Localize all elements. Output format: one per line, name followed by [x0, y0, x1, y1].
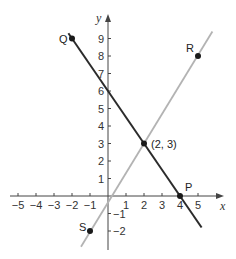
y-tick-label: −1: [113, 208, 126, 220]
x-tick-label: −4: [30, 199, 43, 211]
y-tick-label: 3: [98, 138, 104, 150]
point-label: S: [79, 221, 86, 233]
y-tick-label: 2: [98, 155, 104, 167]
point-marker: [195, 53, 201, 59]
x-tick-label: −3: [48, 199, 61, 211]
y-tick-label: 8: [98, 50, 104, 62]
x-tick-label: 2: [141, 199, 147, 211]
lines: [68, 32, 212, 247]
point-marker: [177, 193, 183, 199]
x-axis-label: x: [219, 199, 226, 213]
point-marker: [69, 36, 75, 42]
x-tick-label: −5: [12, 199, 25, 211]
y-tick-label: −2: [113, 225, 126, 237]
coordinate-plane: xy −5−4−3−2−112345−2−1123456789 QRPS(2, …: [0, 0, 236, 259]
x-tick-label: −1: [84, 199, 97, 211]
y-tick-label: 9: [98, 33, 104, 45]
x-tick-label: −2: [66, 199, 79, 211]
point-label: (2, 3): [151, 138, 177, 150]
point-label: P: [185, 181, 192, 193]
x-tick-label: 5: [195, 199, 201, 211]
y-axis-arrow-icon: [105, 14, 111, 22]
y-axis-label: y: [95, 11, 102, 25]
point-label: R: [186, 42, 194, 54]
y-tick-label: 1: [98, 173, 104, 185]
y-tick-label: 5: [98, 103, 104, 115]
y-tick-label: 4: [98, 120, 104, 132]
x-tick-label: 3: [159, 199, 165, 211]
point-marker: [87, 228, 93, 234]
y-tick-label: 6: [98, 85, 104, 97]
point-marker: [141, 141, 147, 147]
point-label: Q: [59, 33, 68, 45]
